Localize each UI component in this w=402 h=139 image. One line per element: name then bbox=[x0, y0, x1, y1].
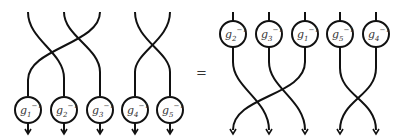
right-strand-1 bbox=[233, 47, 269, 130]
braid-equation-diagram: g1−1 g2−1 g3−1 g4−1 g5−1 bbox=[0, 0, 402, 139]
left-node-g5: g5−1 bbox=[157, 97, 184, 134]
right-node-g5: g5−1 bbox=[327, 21, 354, 47]
left-strand-4 bbox=[135, 12, 170, 96]
left-node-g4: g4−1 bbox=[122, 97, 149, 134]
left-strand-5 bbox=[135, 12, 170, 96]
left-node-g2: g2−1 bbox=[51, 97, 78, 134]
left-strand-1 bbox=[28, 12, 64, 96]
right-strand-4 bbox=[340, 47, 376, 130]
right-diagram: g2−1 g3−1 g1−1 g5−1 g4−1 bbox=[220, 12, 390, 134]
equals-sign: = bbox=[196, 65, 207, 80]
left-node-g1: g1−1 bbox=[15, 97, 42, 134]
right-node-g3: g3−1 bbox=[256, 21, 283, 47]
left-diagram: g1−1 g2−1 g3−1 g4−1 g5−1 bbox=[15, 12, 184, 134]
right-strand-5 bbox=[340, 47, 376, 130]
right-strand-2 bbox=[269, 47, 305, 130]
right-node-g4: g4−1 bbox=[363, 21, 390, 47]
left-node-g3: g3−1 bbox=[87, 97, 114, 134]
right-node-g1: g1−1 bbox=[292, 21, 319, 47]
right-node-g2: g2−1 bbox=[220, 21, 247, 47]
